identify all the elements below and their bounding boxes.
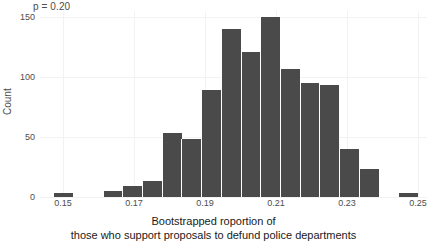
histogram-bar xyxy=(339,149,359,197)
histogram-figure: p = 0.20 Count 050100150 0.150.170.190.2… xyxy=(0,0,427,245)
histogram-bar xyxy=(201,90,221,197)
histogram-bar xyxy=(260,17,280,197)
histogram-bar xyxy=(300,83,320,197)
histogram-bar xyxy=(319,85,339,197)
histogram-bar xyxy=(181,139,201,197)
y-tick-label: 0 xyxy=(30,192,35,202)
x-tick-label: 0.25 xyxy=(409,198,427,208)
histogram-bar xyxy=(142,181,162,197)
histogram-bar xyxy=(398,193,418,197)
histogram-bar xyxy=(221,29,241,197)
y-tick-label: 150 xyxy=(20,12,35,22)
plot-panel xyxy=(40,11,427,197)
x-tick-label: 0.23 xyxy=(338,198,356,208)
histogram-bar xyxy=(162,133,182,197)
x-axis-title-line-1: Bootstrapped roportion of xyxy=(0,214,427,228)
y-tick-label: 50 xyxy=(25,132,35,142)
x-axis-title: Bootstrapped roportion of those who supp… xyxy=(0,214,427,242)
histogram-bar xyxy=(122,186,142,197)
y-axis-title: Count xyxy=(2,88,13,115)
histogram-bar xyxy=(53,193,73,197)
y-axis: Count 050100150 xyxy=(0,11,40,197)
histogram-bar xyxy=(103,191,123,197)
y-tick-label: 100 xyxy=(20,72,35,82)
x-axis: 0.150.170.190.210.230.25 xyxy=(40,198,427,214)
bars-layer xyxy=(40,11,427,197)
x-tick-label: 0.15 xyxy=(54,198,72,208)
x-tick-label: 0.19 xyxy=(196,198,214,208)
x-tick-label: 0.21 xyxy=(267,198,285,208)
histogram-bar xyxy=(280,69,300,197)
x-tick-label: 0.17 xyxy=(125,198,143,208)
x-axis-title-line-2: those who support proposals to defund po… xyxy=(0,228,427,242)
histogram-bar xyxy=(359,169,379,197)
histogram-bar xyxy=(241,52,261,197)
